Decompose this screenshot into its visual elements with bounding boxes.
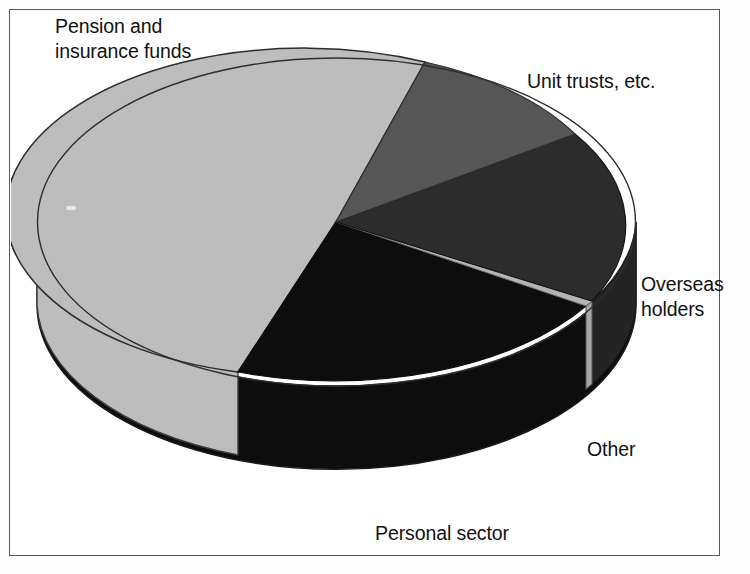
slice-side-other — [586, 301, 592, 389]
pie-label-other: Other — [587, 437, 635, 462]
figure-root: Pension and insurance funds Unit trusts,… — [0, 0, 750, 574]
pie-label-pension-funds: Pension and insurance funds — [55, 14, 191, 64]
pie-highlight-speck — [66, 206, 76, 210]
pie-label-overseas-holders: Overseas holders — [641, 272, 724, 322]
pie-label-unit-trusts: Unit trusts, etc. — [527, 69, 655, 94]
pie-label-personal-sector: Personal sector — [375, 521, 509, 546]
